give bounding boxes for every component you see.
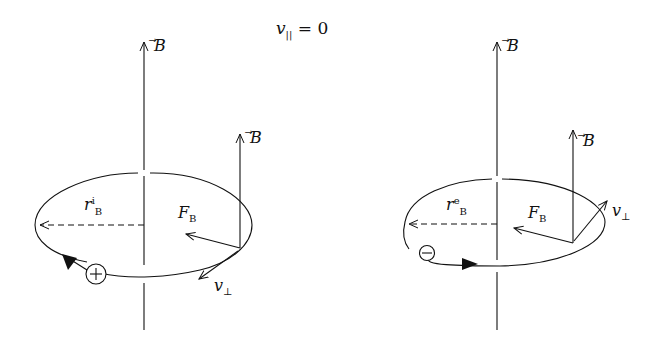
force-label: FB: [528, 205, 546, 224]
force-label: FB: [178, 205, 196, 224]
electron-panel: [404, 42, 607, 330]
velocity-arrow: [574, 201, 607, 241]
velocity-arrow: [199, 251, 238, 279]
gyration-diagram: [0, 0, 665, 345]
axis-b-label: ⃗B: [154, 38, 166, 54]
title-condition: v|| = 0: [276, 18, 328, 40]
force-arrow: [186, 234, 240, 248]
radius-label: riB: [84, 196, 102, 217]
orbit-right: [428, 179, 605, 266]
direction-arrowhead: [462, 258, 478, 270]
axis-b-label: ⃗B: [507, 38, 519, 54]
radius-label: reB: [446, 196, 467, 217]
force-arrow: [514, 228, 573, 243]
local-b-label: ⃗B: [250, 130, 262, 146]
velocity-label: v⊥: [612, 203, 630, 222]
velocity-label: v⊥: [214, 278, 232, 297]
local-b-label: ⃗B: [583, 133, 595, 149]
orbit-left: [35, 173, 138, 262]
